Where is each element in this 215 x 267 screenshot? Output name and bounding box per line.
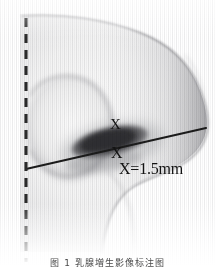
figure-caption: 图 1 乳腺増生影像标注图	[0, 256, 215, 267]
lesion-lower-x-label: X	[111, 145, 123, 161]
measurement-value-label: X=1.5mm	[119, 161, 183, 177]
breast-ultrasound-image	[0, 0, 215, 267]
figure-container: X X X=1.5mm 图 1 乳腺増生影像标注图	[0, 0, 215, 267]
lesion-upper-x-label: X	[110, 117, 121, 132]
